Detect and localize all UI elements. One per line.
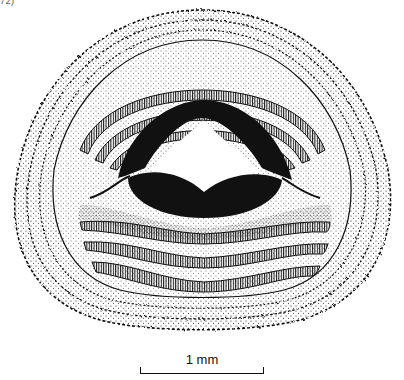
scale-label: 1 mm [140, 352, 264, 367]
scale-bar: 1 mm [140, 352, 264, 376]
oral-disc-illustration [0, 0, 404, 340]
scale-line [140, 367, 264, 374]
